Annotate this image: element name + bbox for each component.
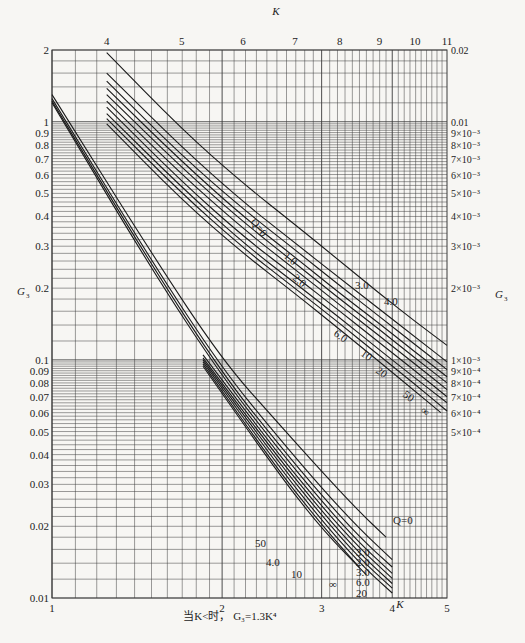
top-tick-label: 6 — [240, 35, 246, 47]
right-tick-label: 6×10⁻⁴ — [451, 408, 481, 419]
top-tick-label: 10 — [409, 35, 421, 47]
bottom-tick-label: 5 — [444, 602, 450, 614]
left-tick-label: 0.9 — [35, 127, 49, 139]
curve-label: 4.0 — [384, 295, 398, 307]
left-tick-label: 0.5 — [35, 187, 49, 199]
right-axis-title: G 3 — [495, 288, 508, 303]
left-tick-label: 0.01 — [30, 592, 49, 604]
footnote-formula: 当K<时， G₃=1.3K⁴ — [183, 609, 277, 622]
top-tick-label: 9 — [377, 35, 383, 47]
curve-label: 4.0 — [266, 556, 280, 568]
curve-label: 3.0 — [355, 279, 369, 291]
top-tick-label: 8 — [337, 35, 343, 47]
curve-label: 20 — [356, 587, 368, 599]
svg-text:G: G — [495, 288, 503, 300]
left-tick-label: 0.6 — [35, 169, 49, 181]
svg-text:G: G — [17, 285, 25, 297]
right-tick-label: 5×10⁻⁴ — [451, 427, 481, 438]
right-tick-label: 2×10⁻³ — [451, 283, 480, 294]
svg-text:3: 3 — [26, 292, 30, 300]
right-tick-label: 7×10⁻⁴ — [451, 392, 481, 403]
right-tick-label: 1×10⁻³ — [451, 355, 480, 366]
chart-svg: 123454567891011210.90.80.70.60.50.40.30.… — [0, 0, 525, 643]
left-tick-label: 0.05 — [30, 426, 50, 438]
left-axis-title: G 3 — [17, 285, 30, 300]
curve-label: 50 — [255, 537, 267, 549]
left-tick-label: 0.03 — [30, 478, 50, 490]
bottom-tick-label: 1 — [49, 602, 55, 614]
left-tick-label: 0.06 — [30, 407, 50, 419]
curve-Qq0 — [52, 95, 386, 538]
curve-label: Q=0 — [393, 514, 413, 526]
right-tick-label: 8×10⁻⁴ — [451, 378, 481, 389]
grid-lines — [52, 50, 447, 598]
left-tick-label: 0.08 — [30, 377, 50, 389]
top-axis-title: K — [271, 5, 280, 17]
left-tick-label: 0.7 — [35, 153, 49, 165]
top-tick-label: 7 — [292, 35, 298, 47]
curve-label: 10 — [359, 347, 375, 363]
curve-label: 10 — [291, 568, 303, 580]
plot-frame — [52, 50, 447, 598]
left-tick-label: 0.04 — [30, 449, 50, 461]
right-tick-label: 9×10⁻³ — [451, 128, 480, 139]
nomogram-chart: 123454567891011210.90.80.70.60.50.40.30.… — [0, 0, 525, 643]
top-tick-label: 5 — [179, 35, 185, 47]
right-tick-label: 5×10⁻³ — [451, 188, 480, 199]
right-tick-label: 6×10⁻³ — [451, 170, 480, 181]
left-tick-label: 0.09 — [30, 365, 50, 377]
left-tick-label: 2 — [44, 44, 50, 56]
left-tick-label: 0.07 — [30, 391, 50, 403]
left-tick-label: 0.02 — [30, 520, 49, 532]
svg-text:3: 3 — [504, 295, 508, 303]
top-tick-label: 4 — [104, 35, 110, 47]
curve-label: ∞ — [329, 578, 337, 590]
right-tick-label: 4×10⁻³ — [451, 211, 480, 222]
right-tick-label: 9×10⁻⁴ — [451, 366, 481, 377]
left-tick-label: 0.8 — [35, 139, 49, 151]
left-tick-label: 0.2 — [35, 282, 49, 294]
left-tick-label: 0.4 — [35, 210, 49, 222]
right-tick-label: 7×10⁻³ — [451, 154, 480, 165]
bottom-tick-label: 3 — [319, 602, 325, 614]
right-tick-label: 8×10⁻³ — [451, 140, 480, 151]
left-tick-label: 0.3 — [35, 240, 49, 252]
bottom-tick-label: 4 — [389, 602, 395, 614]
right-tick-label: 0.01 — [451, 117, 469, 128]
right-tick-label: 3×10⁻³ — [451, 241, 480, 252]
right-tick-label: 0.02 — [451, 45, 469, 56]
bottom-axis-title: K — [395, 598, 404, 610]
